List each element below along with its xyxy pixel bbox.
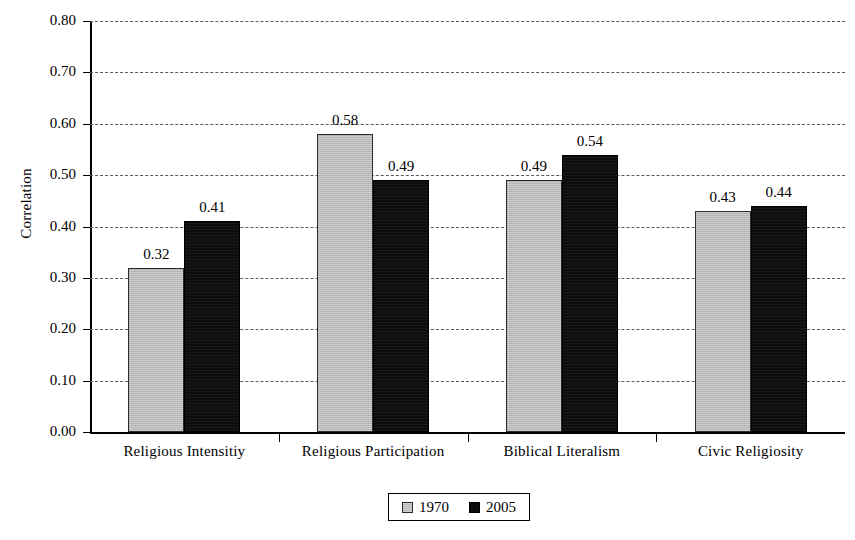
chart-legend: 19702005 bbox=[388, 493, 530, 521]
bar-value-label: 0.32 bbox=[118, 247, 194, 262]
legend-label: 1970 bbox=[419, 500, 449, 515]
bar-value-label: 0.49 bbox=[496, 159, 572, 174]
legend-swatch-2005 bbox=[469, 502, 480, 513]
legend-swatch-1970 bbox=[402, 502, 413, 513]
bar-value-label: 0.49 bbox=[363, 159, 439, 174]
bar-1970-civic-religiosity bbox=[695, 211, 751, 432]
gridline bbox=[90, 175, 845, 176]
legend-item-2005[interactable]: 2005 bbox=[469, 500, 516, 515]
y-axis-tick-label: 0.10 bbox=[10, 373, 76, 388]
bar-value-label: 0.58 bbox=[307, 113, 383, 128]
legend-item-1970[interactable]: 1970 bbox=[402, 500, 449, 515]
bar-2005-civic-religiosity bbox=[751, 206, 807, 432]
bar-2005-religious-intensitiy bbox=[184, 221, 240, 432]
bar-1970-biblical-literalism bbox=[506, 180, 562, 432]
bar-chart: Correlation 0.000.100.200.300.400.500.60… bbox=[0, 0, 855, 540]
y-axis-tick-label: 0.30 bbox=[10, 270, 76, 285]
y-axis-tick-label: 0.20 bbox=[10, 321, 76, 336]
bar-1970-religious-intensitiy bbox=[128, 268, 184, 432]
x-axis-tick-mark bbox=[656, 433, 657, 442]
y-axis-tick-label: 0.50 bbox=[10, 167, 76, 182]
bar-value-label: 0.54 bbox=[552, 134, 628, 149]
x-axis-tick-mark bbox=[468, 433, 469, 442]
gridline bbox=[90, 72, 845, 73]
legend-label: 2005 bbox=[486, 500, 516, 515]
y-axis-tick-label: 0.80 bbox=[10, 13, 76, 28]
x-axis-tick-mark bbox=[279, 433, 280, 442]
bar-value-label: 0.41 bbox=[174, 200, 250, 215]
y-axis-tick-label: 0.40 bbox=[10, 219, 76, 234]
gridline bbox=[90, 21, 845, 22]
x-axis-category-label: Civic Religiosity bbox=[631, 443, 855, 460]
gridline bbox=[90, 124, 845, 125]
plot-area: 0.320.410.580.490.490.540.430.44 bbox=[90, 21, 845, 432]
bar-1970-religious-participation bbox=[317, 134, 373, 432]
y-axis-title: Correlation bbox=[18, 134, 35, 274]
y-axis-tick-label: 0.00 bbox=[10, 424, 76, 439]
bar-2005-biblical-literalism bbox=[562, 155, 618, 432]
bar-2005-religious-participation bbox=[373, 180, 429, 432]
y-axis-tick-label: 0.60 bbox=[10, 116, 76, 131]
y-axis-tick-label: 0.70 bbox=[10, 64, 76, 79]
bar-value-label: 0.44 bbox=[741, 185, 817, 200]
